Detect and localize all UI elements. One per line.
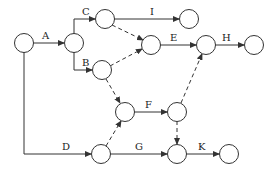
event-node-1: [15, 34, 34, 53]
activity-label-d: D: [62, 141, 70, 152]
dummy-arrow-b-e: [110, 49, 142, 66]
dummy-arrow-f-h: [181, 54, 202, 103]
event-node-6: [197, 36, 216, 55]
event-node-11: [92, 145, 111, 164]
activity-label-f: F: [145, 99, 152, 110]
activity-d-arrow: [24, 52, 91, 154]
event-node-9: [116, 103, 135, 122]
dummy-arrow-d-f: [106, 121, 121, 146]
network-diagram: A C B I E H F D G K: [0, 0, 280, 175]
event-node-8: [93, 61, 112, 80]
dummy-arrow-c-e: [112, 25, 143, 40]
activity-label-e: E: [170, 32, 177, 43]
activity-label-h: H: [222, 32, 231, 43]
activity-label-a: A: [41, 30, 50, 41]
activity-label-g: G: [135, 141, 143, 152]
activity-label-k: K: [198, 141, 206, 152]
dummy-arrow-b-f: [106, 79, 120, 103]
event-node-3: [96, 10, 115, 29]
event-node-2: [65, 34, 84, 53]
event-node-13: [220, 145, 239, 164]
activity-label-c: C: [82, 6, 90, 17]
event-node-4: [180, 10, 199, 29]
event-node-5: [142, 36, 161, 55]
activity-c-arrow: [74, 19, 95, 34]
event-node-7: [245, 36, 264, 55]
event-node-12: [168, 145, 187, 164]
activity-label-b: B: [82, 57, 89, 68]
event-node-10: [168, 103, 187, 122]
activity-label-i: I: [150, 6, 154, 17]
